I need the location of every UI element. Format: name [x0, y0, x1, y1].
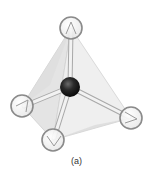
- figure-caption: (a): [0, 156, 153, 166]
- outer-atom-bottom: [42, 129, 64, 151]
- central-atom: [60, 77, 80, 97]
- outer-atom-top: [60, 17, 82, 39]
- outer-atom-right: [120, 107, 142, 129]
- outer-atom-left: [11, 95, 33, 117]
- tetrahedral-molecule-diagram: [0, 0, 153, 181]
